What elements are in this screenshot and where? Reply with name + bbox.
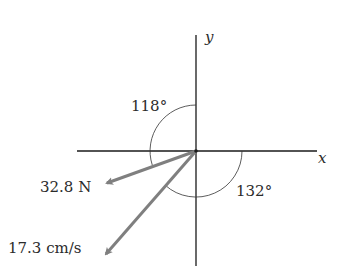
- velocity-vector-label: 17.3 cm/s: [8, 239, 82, 257]
- origin-point: [194, 149, 198, 153]
- y-axis-label: y: [204, 28, 214, 46]
- angle-label-118: 118°: [131, 97, 167, 115]
- vector-diagram: y x 118° 132° 32.8 N 17.3 cm/s: [0, 0, 343, 279]
- force-vector-label: 32.8 N: [40, 178, 91, 196]
- x-axis-label: x: [318, 149, 327, 167]
- angle-label-132: 132°: [236, 182, 272, 200]
